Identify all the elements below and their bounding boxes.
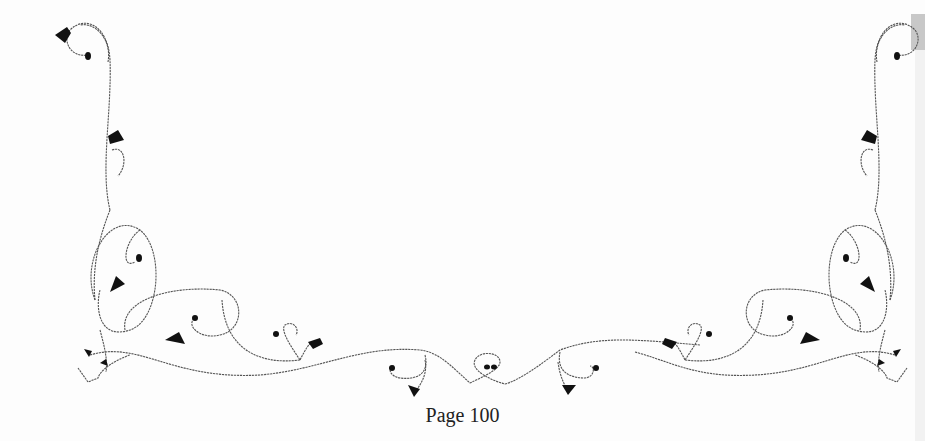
left-vine-icon [55, 23, 470, 383]
right-vine-icon [635, 23, 918, 382]
page-number: Page 100 [0, 404, 925, 427]
floral-border-icon [0, 0, 925, 441]
book-page: Page 100 [0, 0, 925, 441]
center-knot-icon [389, 340, 700, 397]
